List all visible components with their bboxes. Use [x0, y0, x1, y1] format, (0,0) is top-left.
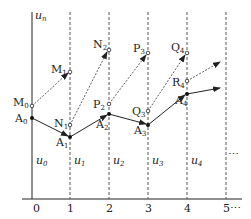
label-P2: P2 — [93, 98, 105, 112]
tick-3: 3 — [145, 202, 152, 215]
label-Q4: Q4 — [171, 41, 185, 55]
tick-5: 5⋯ — [223, 202, 241, 215]
sequence-diagram: un — [0, 0, 251, 219]
label-A3: A3 — [133, 124, 146, 138]
label-P3: P3 — [133, 42, 145, 56]
axis-label: un — [35, 9, 47, 23]
ellipsis: ⋯ — [228, 148, 239, 161]
label-N2: N2 — [93, 38, 107, 52]
tick-1: 1 — [67, 202, 74, 215]
label-Q3: Q3 — [132, 105, 146, 119]
col-label-u4: u4 — [191, 154, 203, 168]
label-A4: A4 — [174, 94, 188, 108]
col-label-u0: u0 — [36, 154, 48, 168]
label-A0: A0 — [14, 112, 27, 126]
tick-4: 4 — [184, 202, 191, 215]
diagram-svg: un — [0, 0, 251, 219]
col-label-u1: u1 — [74, 154, 86, 168]
label-M1: M1 — [51, 63, 67, 77]
col-label-u2: u2 — [113, 154, 125, 168]
tick-2: 2 — [106, 202, 113, 215]
label-A2: A2 — [95, 118, 108, 132]
col-label-u3: u3 — [152, 154, 164, 168]
label-M0: M0 — [13, 96, 29, 110]
label-R4: R4 — [172, 76, 185, 90]
tick-0: 0 — [33, 202, 40, 215]
label-A1: A1 — [55, 136, 68, 150]
label-N1: N1 — [54, 117, 68, 131]
